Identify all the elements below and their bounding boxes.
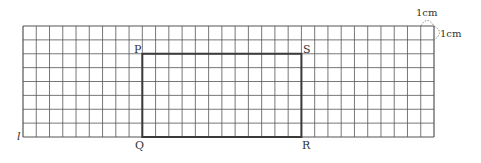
label-r: R	[302, 140, 310, 151]
label-line-l: l	[17, 131, 21, 142]
unit-label-vertical: 1cm	[440, 29, 461, 39]
label-p: P	[134, 44, 141, 55]
grid-canvas	[0, 0, 481, 163]
label-q: Q	[135, 140, 144, 151]
label-s: S	[303, 44, 311, 55]
grid-diagram: P S Q R l 1cm 1cm	[0, 0, 481, 163]
unit-arc-horizontal	[421, 21, 434, 27]
unit-arc-vertical	[434, 26, 440, 40]
grid-lines	[23, 26, 434, 137]
unit-label-horizontal: 1cm	[416, 8, 437, 18]
